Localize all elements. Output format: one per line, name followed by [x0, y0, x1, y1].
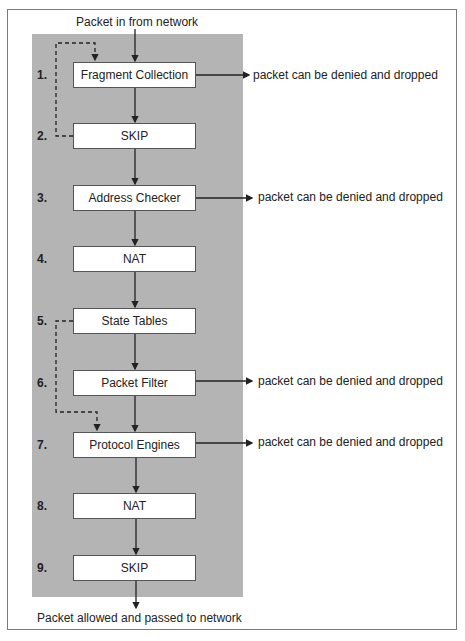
step-number: 3. [37, 191, 47, 205]
step-fragment-collection: Fragment Collection [73, 62, 196, 88]
step-number: 7. [37, 438, 47, 452]
drop-label: packet can be denied and dropped [253, 68, 438, 82]
step-number: 8. [37, 499, 47, 513]
step-protocol-engines: Protocol Engines [73, 432, 196, 458]
step-number: 9. [37, 561, 47, 575]
step-skip-inbound: SKIP [73, 123, 196, 149]
step-packet-filter: Packet Filter [73, 370, 196, 396]
drop-label: packet can be denied and dropped [258, 190, 443, 204]
step-number: 4. [37, 252, 47, 266]
drop-label: packet can be denied and dropped [258, 435, 443, 449]
step-state-tables: State Tables [73, 308, 196, 334]
step-number: 1. [37, 68, 47, 82]
step-address-checker: Address Checker [73, 185, 196, 211]
step-nat-inbound: NAT [73, 246, 196, 272]
step-number: 2. [37, 129, 47, 143]
step-number: 6. [37, 376, 47, 390]
step-nat-outbound: NAT [73, 493, 196, 519]
connector-lines [0, 0, 465, 641]
drop-label: packet can be denied and dropped [258, 374, 443, 388]
step-skip-outbound: SKIP [73, 555, 196, 581]
step-number: 5. [37, 314, 47, 328]
